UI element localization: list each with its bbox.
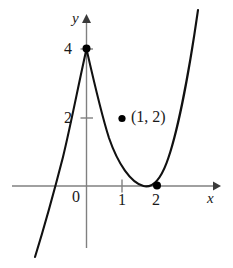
point-local-minimum	[153, 182, 161, 190]
point-annotation-1-2: (1, 2)	[131, 109, 166, 125]
y-axis-arrow-icon	[82, 14, 91, 23]
x-tick-label-1: 1	[118, 192, 126, 208]
y-tick-label-4: 4	[64, 41, 72, 57]
plot-canvas	[0, 0, 233, 268]
cubic-curve	[35, 10, 198, 257]
point-1-2	[118, 115, 125, 122]
x-tick-label-2: 2	[152, 192, 160, 208]
y-tick-label-2: 2	[64, 110, 72, 126]
origin-label: 0	[72, 189, 80, 205]
x-axis-label: x	[207, 191, 214, 206]
x-axis-arrow-icon	[213, 182, 221, 191]
cubic-graph-figure: y x 0 4 2 1 2 (1, 2)	[0, 0, 233, 268]
y-axis-label: y	[72, 11, 79, 26]
curve-path-unused2	[36, 123, 183, 257]
point-local-maximum	[83, 45, 91, 53]
